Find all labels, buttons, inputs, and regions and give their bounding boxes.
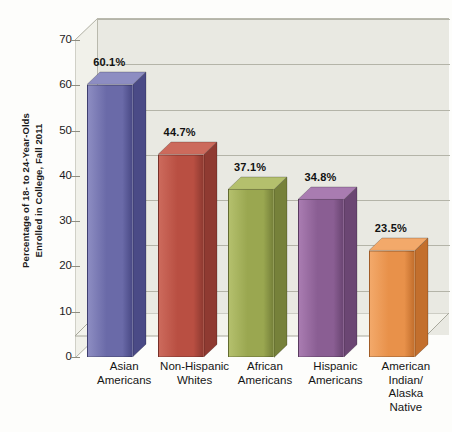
bar-front-face — [369, 251, 415, 357]
bar-value-label: 37.1% — [234, 161, 266, 173]
bar-value-label: 60.1% — [93, 56, 125, 68]
axis-tick-mark — [71, 176, 80, 177]
bar-side-face — [415, 238, 429, 359]
bar-top-face — [228, 176, 288, 190]
y-axis-title-line-1: Percentage of 18- to 24-Year-Olds — [20, 81, 33, 301]
bar-value-label: 34.8% — [304, 171, 336, 183]
x-category-label-line: Native — [361, 401, 451, 415]
axis-tick-mark — [71, 357, 80, 358]
y-tick-label: 10 — [42, 306, 72, 317]
bar-side-face — [274, 177, 288, 359]
axis-tick-mark — [71, 312, 80, 313]
bar-4 — [298, 199, 344, 357]
axis-tick-mark — [71, 266, 80, 267]
bar-side-face — [204, 142, 218, 359]
y-tick-label: 30 — [42, 215, 72, 226]
bar-2 — [158, 155, 204, 357]
bar-top-face — [158, 141, 218, 155]
x-category-label-5: AmericanIndian/AlaskaNative — [361, 360, 451, 414]
gridline — [98, 64, 450, 65]
y-tick-label: 70 — [42, 34, 72, 45]
y-axis-tick-labels: 010203040506070 — [42, 0, 72, 432]
bar-side-face — [133, 72, 147, 359]
gridline — [98, 155, 450, 156]
gridline — [98, 110, 450, 111]
plot-area: 60.1%44.7%37.1%34.8%23.5% — [75, 18, 449, 356]
bar-5 — [369, 251, 415, 357]
bar-value-label: 23.5% — [375, 222, 407, 234]
bar-top-face — [369, 237, 429, 251]
x-category-label-line: American — [361, 360, 451, 374]
gridline — [98, 19, 450, 20]
axis-tick-mark — [71, 40, 80, 41]
bar-front-face — [298, 199, 344, 357]
y-axis-title: Percentage of 18- to 24-Year-Olds Enroll… — [20, 81, 45, 301]
y-tick-label: 0 — [42, 351, 72, 362]
bar-3 — [228, 189, 274, 357]
bar-front-face — [228, 189, 274, 357]
x-category-label-line: Alaska — [361, 387, 451, 401]
x-category-label-line: Indian/ — [361, 374, 451, 388]
axis-tick-mark — [71, 85, 80, 86]
axis-tick-mark — [71, 131, 80, 132]
bar-side-face — [344, 187, 358, 359]
y-tick-label: 60 — [42, 79, 72, 90]
bar-1 — [87, 85, 133, 357]
y-tick-label: 40 — [42, 170, 72, 181]
bar-value-label: 44.7% — [164, 126, 196, 138]
bar-front-face — [87, 85, 133, 357]
axis-tick-mark — [71, 221, 80, 222]
bar-top-face — [298, 186, 358, 200]
x-axis-category-labels: AsianAmericansNon-HispanicWhitesAfricanA… — [75, 360, 449, 432]
bar-chart: Percentage of 18- to 24-Year-Olds Enroll… — [0, 0, 452, 432]
bar-top-face — [87, 71, 147, 85]
y-tick-label: 50 — [42, 125, 72, 136]
bar-front-face — [158, 155, 204, 357]
y-tick-label: 20 — [42, 260, 72, 271]
